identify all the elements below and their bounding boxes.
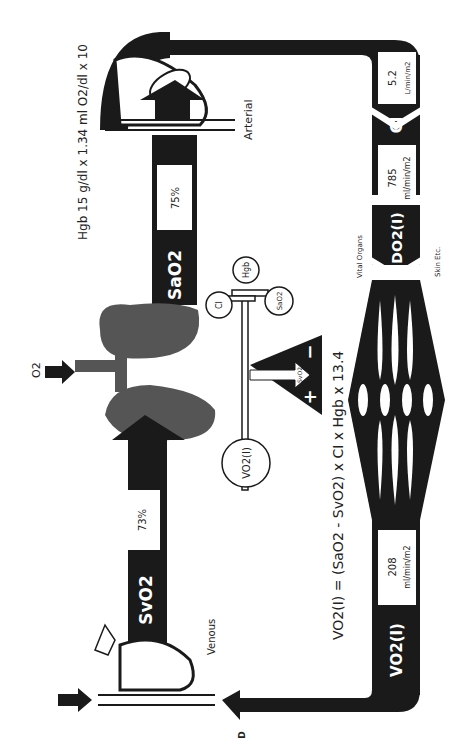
oxygen-transport-diagram: Hgb 15 g/dl x 1.34 ml O2/dl x 10 Arteria… (0, 0, 458, 745)
plus-sign: + (299, 389, 320, 404)
capillary-bed-icon (348, 280, 445, 520)
balance-lever (206, 257, 322, 490)
arterial-heart-icon (105, 56, 235, 130)
skin-label: Skin Etc. (434, 247, 442, 277)
balance-vo2: VO2(I) (241, 447, 252, 479)
vo2-unit: ml/min/m2 (403, 545, 412, 588)
vital-organs-label: Vital Organs (356, 235, 364, 278)
sao2-label: SaO2 (165, 250, 185, 300)
vo2-label: VO2(I) (388, 623, 406, 677)
arterial-label: Arterial (242, 99, 255, 140)
venous-label: Venous (206, 619, 217, 655)
do2-value: 785 (387, 168, 398, 187)
ci-unit: L/min/m2 (404, 61, 412, 94)
o2-label: O2 (30, 362, 43, 378)
main-formula: VO2(I) = (SaO2 - SvO2) x CI x Hgb x 13.4 (330, 351, 346, 640)
o2-inflow-arrow-icon (45, 360, 75, 384)
minus-sign: − (299, 344, 320, 359)
ci-value: 5.2 (387, 70, 398, 86)
balance-ci: CI (215, 301, 224, 309)
panel-letter: D (237, 731, 247, 738)
ci-label: CI (388, 117, 406, 134)
sao2-value: 75% (170, 187, 181, 209)
balance-hgb: Hgb (242, 262, 251, 278)
hgb-note: Hgb 15 g/dl x 1.34 ml O2/dl x 10 (76, 44, 90, 240)
svo2-value: 73% (137, 509, 148, 531)
do2-label: DO2(I) (389, 212, 405, 263)
svo2-label: SvO2 (136, 575, 156, 625)
balance-sao2: SaO2 (276, 292, 284, 311)
venous-inflow-arrow-icon (58, 688, 92, 712)
fulcrum-label: SvO2 (296, 367, 303, 383)
vo2-value: 208 (387, 557, 398, 576)
do2-unit: ml/min/m2 (403, 156, 412, 199)
